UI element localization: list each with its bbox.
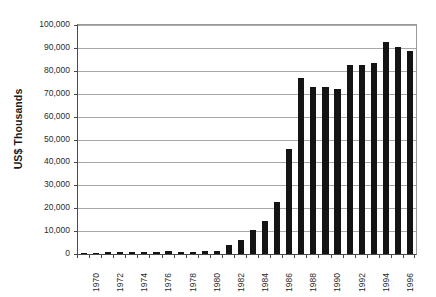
y-tick-label: 20,000: [44, 202, 70, 212]
bar: [407, 51, 413, 254]
x-tick-label: 1986: [284, 273, 294, 292]
x-tick-label: 1996: [405, 273, 415, 292]
x-tick-label: 1980: [212, 273, 222, 292]
bar: [359, 65, 365, 254]
y-tick-label: 70,000: [44, 88, 70, 98]
x-tick-label: 1990: [332, 273, 342, 292]
y-tick-label: 80,000: [44, 65, 70, 75]
y-axis-title-label: US$ Thousands: [12, 89, 24, 170]
bar: [310, 87, 316, 254]
x-tick-label: 1984: [260, 273, 270, 292]
y-tick-label: 90,000: [44, 42, 70, 52]
x-tick-label: 1978: [188, 273, 198, 292]
x-tick-label: 1994: [381, 273, 391, 292]
y-tick-label: 60,000: [44, 111, 70, 121]
y-axis-tick-labels: 100,00090,00080,00070,00060,00050,00040,…: [24, 24, 74, 253]
x-tick-label: 1982: [236, 273, 246, 292]
y-tick-label: 10,000: [44, 225, 70, 235]
x-tick-label: 1972: [115, 273, 125, 292]
bar: [347, 65, 353, 254]
x-tick-label: 1970: [91, 273, 101, 292]
bar-chart: US$ Thousands 100,00090,00080,00070,0006…: [0, 0, 436, 297]
y-tick-label: 40,000: [44, 156, 70, 166]
y-tick-label: 30,000: [44, 179, 70, 189]
bar: [334, 89, 340, 254]
bar: [250, 230, 256, 254]
y-tick-label: 100,000: [39, 19, 70, 29]
bar: [274, 202, 280, 254]
x-tick-label: 1988: [308, 273, 318, 292]
bar: [262, 221, 268, 254]
bar: [286, 149, 292, 254]
x-axis-tick-labels: 1970197219741976197819801982198419861988…: [77, 258, 415, 297]
x-tick-label: 1976: [163, 273, 173, 292]
x-tick-label: 1974: [139, 273, 149, 292]
bar: [238, 240, 244, 254]
plot-area: [77, 24, 417, 255]
bar: [383, 42, 389, 254]
bar: [298, 78, 304, 254]
bar: [226, 245, 232, 254]
bar: [395, 47, 401, 254]
x-tick-label: 1992: [357, 273, 367, 292]
bars-layer: [78, 25, 416, 254]
bar: [322, 87, 328, 254]
y-tick-label: 0: [65, 248, 70, 258]
y-tick-label: 50,000: [44, 134, 70, 144]
bar: [371, 63, 377, 254]
